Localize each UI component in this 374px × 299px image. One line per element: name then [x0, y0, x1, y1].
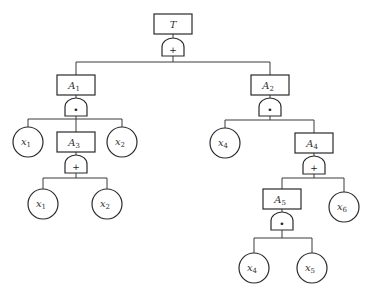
basic-event-x6[interactable]: x6: [329, 192, 359, 222]
svg-text:•: •: [73, 105, 78, 115]
or-gate-icon: +: [303, 156, 325, 174]
event-box-A1[interactable]: A1: [57, 75, 95, 95]
basic-event-x2[interactable]: x2: [92, 189, 122, 219]
svg-text:•: •: [267, 105, 272, 115]
basic-event-x2[interactable]: x2: [107, 127, 137, 157]
svg-text:+: +: [72, 162, 80, 172]
and-gate-icon: •: [259, 98, 281, 116]
or-gate-icon: +: [162, 38, 184, 56]
or-gate-icon: +: [65, 155, 87, 173]
basic-event-x4[interactable]: x4: [239, 253, 269, 283]
basic-event-x4[interactable]: x4: [210, 128, 240, 158]
basic-event-x5[interactable]: x5: [297, 253, 327, 283]
event-box-A5[interactable]: A5: [263, 189, 301, 209]
event-box-A3[interactable]: A3: [57, 132, 95, 152]
svg-text:•: •: [279, 219, 284, 229]
and-gate-icon: •: [271, 212, 293, 230]
svg-text:+: +: [169, 45, 177, 55]
basic-event-x1[interactable]: x1: [13, 127, 43, 157]
event-box-A2[interactable]: A2: [251, 75, 289, 95]
svg-text:+: +: [310, 163, 318, 173]
event-box-T[interactable]: T: [154, 14, 192, 34]
and-gate-icon: •: [65, 98, 87, 116]
fault-tree-diagram: T + A1 • x1 x2 A3 + x1 x2 A2: [0, 0, 374, 299]
basic-event-x1[interactable]: x1: [28, 189, 58, 219]
event-box-A4[interactable]: A4: [295, 133, 333, 153]
